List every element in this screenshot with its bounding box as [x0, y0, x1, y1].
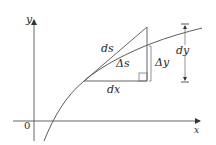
delta-y-bracket — [149, 46, 151, 81]
arc-length-diagram — [0, 0, 216, 145]
y-axis-label: y — [26, 14, 32, 25]
delta-s-label: Δs — [116, 58, 130, 69]
dx-label: dx — [107, 84, 120, 95]
right-angle-marker — [139, 73, 147, 81]
tangent-line — [84, 27, 147, 81]
origin-label: 0 — [24, 121, 30, 131]
x-axis-label: x — [194, 126, 199, 135]
dy-top-arrow — [183, 25, 187, 29]
dy-label: dy — [176, 45, 189, 56]
dy-bottom-arrow — [183, 77, 187, 81]
delta-y-label: Δy — [155, 57, 169, 68]
ds-label: ds — [101, 43, 114, 54]
